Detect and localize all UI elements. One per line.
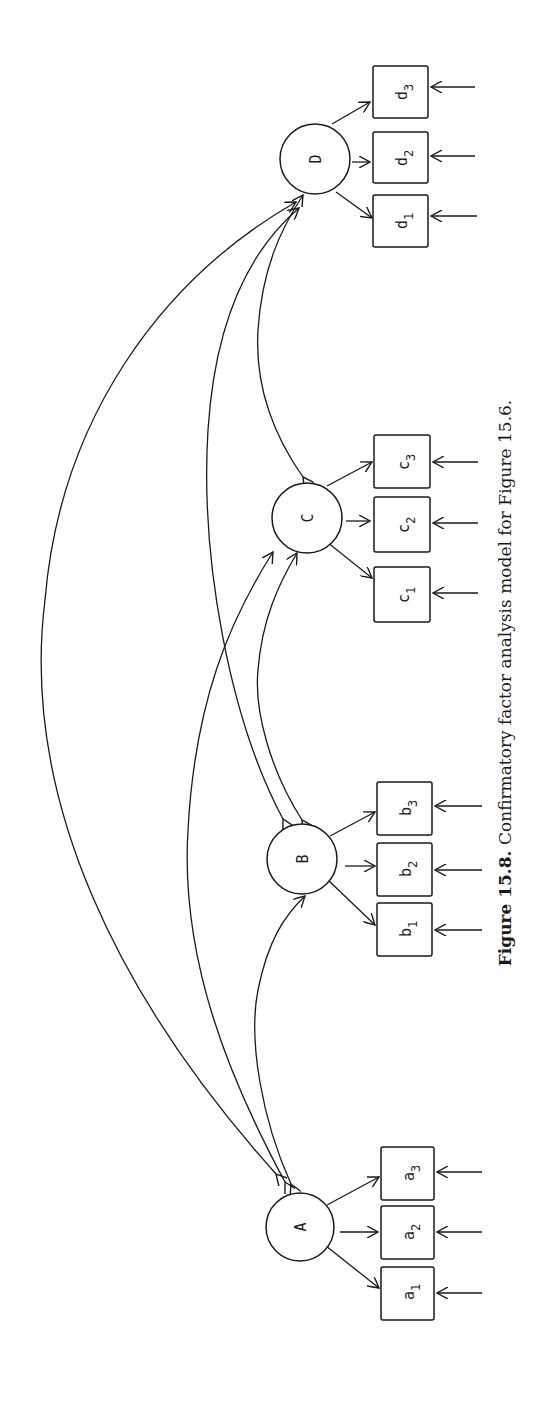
loading-arrow-b3 bbox=[330, 812, 375, 836]
factor-b: B b1 b2 b3 bbox=[267, 782, 482, 956]
loading-arrow-c1 bbox=[327, 542, 372, 578]
loading-arrow-d1 bbox=[336, 192, 372, 218]
loading-arrow-c3 bbox=[327, 462, 372, 486]
cfa-diagram: A a1 a2 a3 B b1 b2 b3 C bbox=[0, 0, 543, 1402]
caption-text: Confirmatory factor analysis model for F… bbox=[495, 400, 515, 851]
factor-c: C c1 c2 c3 bbox=[272, 435, 478, 622]
factor-d: D d1 d2 d3 bbox=[280, 66, 477, 247]
loading-arrow-b1 bbox=[328, 880, 375, 925]
loading-arrow-a3 bbox=[327, 1177, 379, 1205]
factor-label-a: A bbox=[292, 1222, 310, 1231]
caption-label: Figure 15.8. bbox=[495, 850, 515, 966]
factor-label-b: B bbox=[294, 854, 312, 863]
loading-arrow-d3 bbox=[332, 102, 370, 124]
factor-label-d: D bbox=[307, 154, 325, 163]
covariance-arc-c-d bbox=[258, 195, 303, 477]
factor-label-c: C bbox=[299, 513, 317, 522]
figure-caption: Figure 15.8. Confirmatory factor analysi… bbox=[495, 400, 515, 967]
covariance-arcs bbox=[41, 195, 305, 1184]
factor-a: A a1 a2 a3 bbox=[266, 1147, 482, 1320]
covariance-arc-a-b bbox=[255, 896, 305, 1184]
loading-arrow-a1 bbox=[326, 1246, 379, 1288]
